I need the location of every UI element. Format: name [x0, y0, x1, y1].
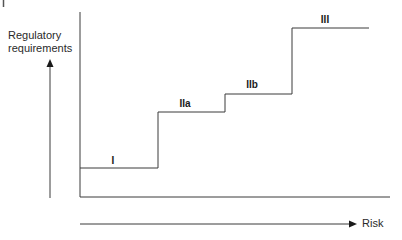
arrow-right-icon — [349, 221, 357, 228]
step-label-iia: IIa — [179, 98, 190, 109]
y-axis-label-line-1: Regulatory — [8, 29, 72, 42]
y-axis-label-line-2: requirements — [8, 42, 72, 55]
step-label-iii: III — [321, 14, 329, 25]
step-label-i: I — [112, 155, 115, 166]
y-axis-label: Regulatory requirements — [8, 29, 72, 55]
arrow-up-icon — [47, 59, 54, 67]
staircase-line — [80, 28, 369, 168]
step-label-iib: IIb — [246, 79, 258, 90]
x-axis-label: Risk — [362, 217, 383, 229]
